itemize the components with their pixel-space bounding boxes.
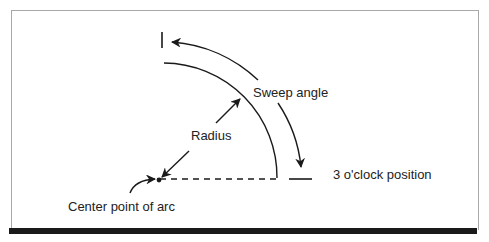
- center-point-dot: [157, 178, 162, 183]
- three-oclock-label: 3 o'clock position: [333, 168, 432, 181]
- radius-arrow-inner: [162, 151, 189, 177]
- radius-label: Radius: [191, 129, 231, 142]
- sweep-angle-label: Sweep angle: [253, 86, 328, 99]
- center-point-label: Center point of arc: [68, 200, 175, 213]
- sweep-angle-arrow-lower: [278, 103, 301, 167]
- sweep-angle-arrow: [172, 42, 258, 80]
- radius-arrow-outer: [216, 99, 240, 123]
- arc-curve: [164, 63, 277, 178]
- center-point-arrow: [130, 179, 155, 193]
